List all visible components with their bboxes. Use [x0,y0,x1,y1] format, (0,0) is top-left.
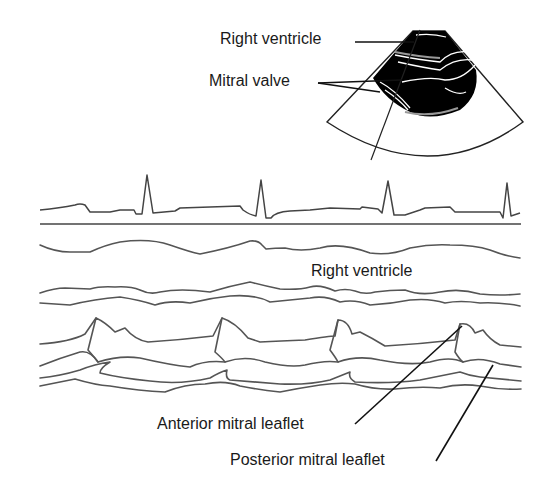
septum-trace-upper [40,282,520,295]
label-inset-right-ventricle: Right ventricle [220,30,321,47]
anterior-leaflet-trace [40,318,521,347]
leader-posterior-leaflet [436,365,493,461]
ecg-trace [40,175,520,218]
label-inset-mitral-valve: Mitral valve [209,72,290,89]
diagram-canvas: Right ventricle Mitral valve Right ventr… [0,0,551,493]
label-right-ventricle: Right ventricle [311,262,412,279]
posterior-leaflet-trace [40,379,521,392]
label-anterior-leaflet: Anterior mitral leaflet [157,415,304,432]
anterior-opening-3 [330,320,338,362]
anterior-opening-2 [215,318,225,362]
mitral-valve-traces [40,318,521,392]
sector-scan [327,30,523,160]
rv-wall-trace [40,241,520,258]
label-posterior-leaflet: Posterior mitral leaflet [230,451,385,468]
septum-trace-lower [40,296,520,306]
leaflet-trace-middle-1 [40,352,521,367]
